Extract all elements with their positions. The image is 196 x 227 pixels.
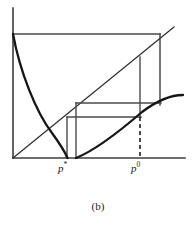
figure-caption: (b)	[0, 201, 196, 212]
axis-label-p-zero: p0	[131, 163, 140, 174]
figure-container: p* p0 (b)	[0, 0, 196, 227]
forty-five-degree-line	[13, 27, 174, 158]
axis-label-p-star: p*	[58, 163, 67, 174]
increasing-convex-curve	[76, 95, 183, 158]
cobweb-diagram	[0, 0, 196, 227]
axis-label-p-star-sup: *	[64, 160, 68, 169]
axis-label-p-zero-sup: 0	[137, 160, 141, 169]
decreasing-convex-curve	[13, 34, 68, 158]
